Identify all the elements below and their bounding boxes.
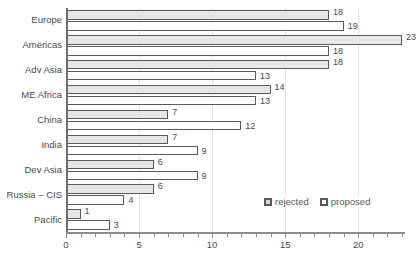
y-axis-label-china: China bbox=[37, 115, 62, 125]
y-axis-label-me-africa: ME Africa bbox=[21, 90, 62, 100]
minor-tick-16 bbox=[300, 234, 301, 237]
bar-value-label: 6 bbox=[158, 182, 163, 191]
minor-tick-11 bbox=[227, 234, 228, 237]
bar-row: 9 bbox=[66, 171, 405, 181]
bar-proposed[interactable] bbox=[66, 21, 344, 31]
bar-rejected[interactable] bbox=[66, 60, 329, 70]
minor-tick-13 bbox=[256, 234, 257, 237]
x-tick-label-10: 10 bbox=[207, 240, 218, 250]
y-axis-label-india: India bbox=[41, 140, 62, 150]
major-tick-15 bbox=[285, 234, 286, 238]
major-tick-10 bbox=[212, 234, 213, 238]
bar-proposed[interactable] bbox=[66, 46, 329, 56]
legend-item-rejected[interactable]: rejected bbox=[264, 197, 309, 207]
bar-row: 19 bbox=[66, 21, 405, 31]
x-tick-label-15: 15 bbox=[280, 240, 291, 250]
bar-value-label: 18 bbox=[333, 8, 343, 17]
bar-value-label: 14 bbox=[275, 83, 285, 92]
minor-tick-6 bbox=[154, 234, 155, 237]
x-tick-label-0: 0 bbox=[63, 240, 68, 250]
bar-group: 1819 bbox=[66, 8, 405, 33]
bar-row: 14 bbox=[66, 85, 405, 95]
bar-value-label: 9 bbox=[202, 172, 207, 181]
bar-row: 7 bbox=[66, 110, 405, 120]
bar-rejected[interactable] bbox=[66, 160, 154, 170]
bar-row: 18 bbox=[66, 60, 405, 70]
bar-group: 79 bbox=[66, 132, 405, 157]
minor-tick-3 bbox=[110, 234, 111, 237]
minor-tick-23 bbox=[402, 234, 403, 237]
x-tick-label-20: 20 bbox=[353, 240, 364, 250]
bar-row: 1 bbox=[66, 209, 405, 219]
bar-proposed[interactable] bbox=[66, 146, 198, 156]
bar-row: 12 bbox=[66, 121, 405, 131]
y-axis-label-russia-cis: Russia – CIS bbox=[7, 190, 62, 200]
bar-proposed[interactable] bbox=[66, 121, 241, 131]
bar-proposed[interactable] bbox=[66, 220, 110, 230]
minor-tick-21 bbox=[373, 234, 374, 237]
bar-proposed[interactable] bbox=[66, 195, 124, 205]
bar-value-label: 18 bbox=[333, 58, 343, 67]
bar-group: 2318 bbox=[66, 33, 405, 58]
minor-tick-14 bbox=[271, 234, 272, 237]
y-axis-label-europe: Europe bbox=[31, 15, 62, 25]
bar-value-label: 12 bbox=[245, 122, 255, 131]
bar-rejected[interactable] bbox=[66, 110, 168, 120]
bar-group: 69 bbox=[66, 157, 405, 182]
legend-item-proposed[interactable]: proposed bbox=[320, 197, 371, 207]
bar-row: 18 bbox=[66, 46, 405, 56]
y-axis-label-pacific: Pacific bbox=[34, 215, 62, 225]
legend-label: proposed bbox=[331, 197, 371, 207]
minor-tick-1 bbox=[81, 234, 82, 237]
minor-tick-2 bbox=[95, 234, 96, 237]
bar-group: 712 bbox=[66, 108, 405, 133]
bar-row: 3 bbox=[66, 220, 405, 230]
bar-value-label: 18 bbox=[333, 47, 343, 56]
chart-legend: rejectedproposed bbox=[262, 196, 372, 208]
bar-value-label: 7 bbox=[172, 133, 177, 142]
bar-rejected[interactable] bbox=[66, 135, 168, 145]
minor-tick-22 bbox=[387, 234, 388, 237]
bar-proposed[interactable] bbox=[66, 96, 256, 106]
bar-row: 7 bbox=[66, 135, 405, 145]
bar-value-label: 6 bbox=[158, 158, 163, 167]
bar-rejected[interactable] bbox=[66, 184, 154, 194]
bar-proposed[interactable] bbox=[66, 171, 198, 181]
bar-row: 18 bbox=[66, 10, 405, 20]
minor-tick-19 bbox=[344, 234, 345, 237]
minor-tick-7 bbox=[168, 234, 169, 237]
major-tick-5 bbox=[139, 234, 140, 238]
minor-tick-9 bbox=[198, 234, 199, 237]
minor-tick-17 bbox=[314, 234, 315, 237]
y-axis-label-adv-asia: Adv Asia bbox=[25, 65, 62, 75]
bar-rejected[interactable] bbox=[66, 10, 329, 20]
bar-value-label: 7 bbox=[172, 108, 177, 117]
bar-row: 23 bbox=[66, 35, 405, 45]
major-tick-20 bbox=[358, 234, 359, 238]
bar-value-label: 9 bbox=[202, 147, 207, 156]
bar-value-label: 19 bbox=[348, 22, 358, 31]
minor-tick-4 bbox=[124, 234, 125, 237]
bar-chart: EuropeAmericasAdv AsiaME AfricaChinaIndi… bbox=[0, 0, 417, 264]
bar-rejected[interactable] bbox=[66, 35, 402, 45]
bar-row: 6 bbox=[66, 160, 405, 170]
legend-swatch-icon bbox=[264, 198, 272, 206]
bar-rejected[interactable] bbox=[66, 85, 271, 95]
bar-value-label: 13 bbox=[260, 97, 270, 106]
bar-value-label: 3 bbox=[114, 221, 119, 230]
minor-tick-12 bbox=[241, 234, 242, 237]
y-axis-label-dev-asia: Dev Asia bbox=[25, 165, 63, 175]
bar-row: 9 bbox=[66, 146, 405, 156]
major-tick-0 bbox=[66, 234, 67, 238]
bar-proposed[interactable] bbox=[66, 71, 256, 81]
bar-row: 13 bbox=[66, 96, 405, 106]
y-axis-category-labels: EuropeAmericasAdv AsiaME AfricaChinaIndi… bbox=[0, 8, 62, 232]
minor-tick-8 bbox=[183, 234, 184, 237]
bar-value-label: 1 bbox=[85, 207, 90, 216]
minor-tick-18 bbox=[329, 234, 330, 237]
bar-rejected[interactable] bbox=[66, 209, 81, 219]
bar-row: 13 bbox=[66, 71, 405, 81]
x-axis-tick-labels: 05101520 bbox=[0, 240, 417, 254]
y-axis-label-americas: Americas bbox=[22, 40, 62, 50]
legend-label: rejected bbox=[275, 197, 309, 207]
